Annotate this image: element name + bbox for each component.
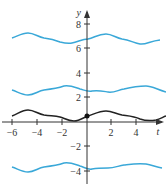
- initial-point-marker: [85, 114, 90, 119]
- y-tick-label: 4: [76, 68, 81, 79]
- curve-middle: [12, 86, 166, 95]
- y-tick-label: 2: [76, 92, 81, 103]
- x-axis-arrow: [156, 119, 164, 125]
- y-tick-label: 6: [76, 43, 81, 54]
- curve-upper: [12, 33, 160, 44]
- y-tick-label: −4: [70, 166, 81, 177]
- chart: −6 −4 −2 2 4 8 6 4 2 −2 −4 y t: [0, 0, 166, 184]
- y-tick-label: −2: [70, 141, 81, 152]
- y-tick-label: 8: [76, 19, 81, 30]
- x-tick-label: 2: [109, 127, 114, 138]
- y-axis-arrow: [84, 10, 90, 18]
- x-tick-label: −4: [32, 127, 43, 138]
- x-tick-label: −2: [57, 127, 68, 138]
- x-tick-label: 4: [134, 127, 139, 138]
- x-tick-label: −6: [7, 127, 18, 138]
- x-axis-label: t: [157, 126, 160, 137]
- y-axis-label: y: [76, 7, 82, 18]
